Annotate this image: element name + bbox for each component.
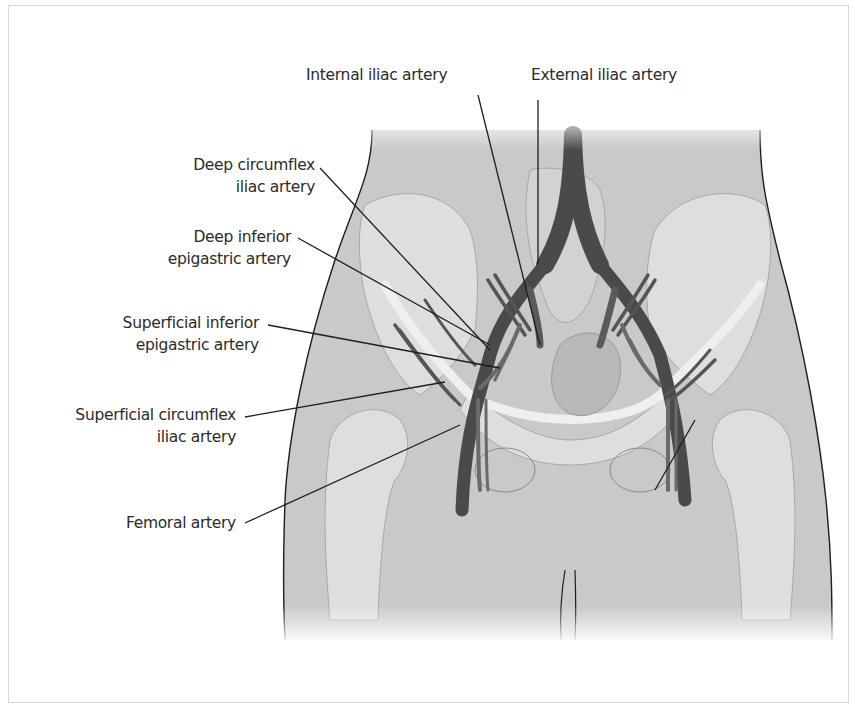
bottom-fade bbox=[280, 605, 840, 645]
label-internal-iliac-artery: Internal iliac artery bbox=[306, 64, 447, 86]
label-external-iliac-artery: External iliac artery bbox=[531, 64, 677, 86]
label-deep-circumflex-iliac-artery: Deep circumflex iliac artery bbox=[193, 154, 315, 198]
label-femoral-artery: Femoral artery bbox=[126, 512, 236, 534]
label-superficial-inferior-epigastric-artery: Superficial inferior epigastric artery bbox=[123, 312, 259, 356]
label-superficial-circumflex-iliac-artery: Superficial circumflex iliac artery bbox=[75, 404, 236, 448]
label-deep-inferior-epigastric-artery: Deep inferior epigastric artery bbox=[168, 226, 291, 270]
top-fade bbox=[280, 110, 840, 150]
